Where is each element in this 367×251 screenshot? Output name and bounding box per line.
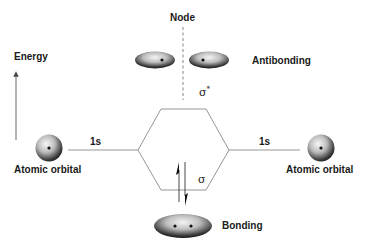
electron-pair-icon bbox=[176, 162, 188, 206]
node-label: Node bbox=[170, 13, 195, 23]
right-atomic-orbital-label: Atomic orbital bbox=[286, 165, 353, 175]
right-1s-label: 1s bbox=[259, 137, 270, 147]
mo-diagram: Energy Node Antibonding σ* 1s 1s Atomic … bbox=[0, 0, 367, 251]
left-1s-label: 1s bbox=[90, 137, 101, 147]
sigma-symbol: σ bbox=[198, 174, 206, 185]
bonding-orbital-icon bbox=[154, 214, 212, 238]
correlation-lines bbox=[68, 109, 300, 190]
bonding-label: Bonding bbox=[222, 221, 263, 231]
right-atom-sphere-icon bbox=[308, 135, 335, 162]
diagram-canvas bbox=[0, 0, 367, 251]
left-atom-sphere-icon bbox=[36, 135, 63, 162]
antibonding-orbital-icon bbox=[135, 52, 229, 69]
sigma-star-symbol: σ* bbox=[199, 86, 210, 98]
left-atomic-orbital-label: Atomic orbital bbox=[14, 165, 81, 175]
sigma-star-sup: * bbox=[207, 85, 211, 93]
sigma-star-base: σ bbox=[199, 86, 207, 99]
antibonding-label: Antibonding bbox=[252, 56, 311, 66]
energy-axis-label: Energy bbox=[14, 52, 48, 62]
